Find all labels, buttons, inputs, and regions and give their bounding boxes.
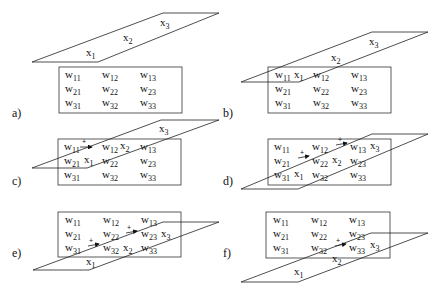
x2-label: x2: [332, 153, 342, 168]
x2-label: x2: [120, 139, 130, 154]
svg-text:w22: w22: [102, 154, 118, 169]
plus-sign: +: [127, 224, 131, 231]
svg-text:w32: w32: [103, 241, 119, 256]
plus-sign: +: [82, 138, 86, 145]
svg-text:w23: w23: [141, 227, 157, 242]
panel-c: x1 x2 x3 w11 w12 w13 w21 w22 w23 w31 w32…: [12, 120, 219, 188]
svg-text:w32: w32: [312, 168, 328, 183]
svg-text:w12: w12: [311, 213, 327, 228]
svg-text:w31: w31: [273, 241, 289, 256]
svg-text:w33: w33: [140, 168, 156, 183]
x2-label: x2: [331, 51, 341, 66]
svg-text:w22: w22: [311, 227, 327, 242]
panel-f: x1 x2 x3 w11 w12 w13 w21 w22 w23 w31 w32…: [223, 212, 428, 282]
svg-text:w11: w11: [274, 140, 290, 155]
svg-text:w13: w13: [349, 213, 365, 228]
plus-sign: +: [336, 237, 340, 244]
plus-sign: +: [300, 149, 304, 156]
svg-text:w31: w31: [275, 96, 291, 111]
x1-label: x1: [294, 265, 304, 280]
panel-label-f: f): [223, 246, 231, 260]
svg-text:w11: w11: [275, 68, 291, 83]
x1-label: x1: [84, 153, 94, 168]
svg-text:w33: w33: [141, 241, 157, 256]
svg-text:w21: w21: [274, 154, 290, 169]
svg-text:w31: w31: [65, 96, 81, 111]
panel-label-d: d): [223, 174, 233, 188]
svg-text:w21: w21: [65, 82, 81, 97]
x3-label: x3: [369, 35, 379, 50]
svg-text:w12: w12: [102, 68, 118, 83]
svg-text:w23: w23: [351, 82, 367, 97]
svg-text:w22: w22: [103, 227, 119, 242]
panel-b: x1 x2 x3 w11 w12 w13 w21 w22 w23 w31 w32…: [223, 32, 428, 120]
panel-label-a: a): [12, 106, 21, 120]
accumulate-arrow: [88, 244, 99, 246]
svg-text:w12: w12: [103, 213, 119, 228]
svg-text:w11: w11: [273, 213, 289, 228]
panel-a: x1 x2 x3 w11 w12 w13 w21 w22 w23 w31 w32…: [12, 13, 219, 120]
svg-text:w21: w21: [273, 227, 289, 242]
plus-sign: +: [89, 237, 93, 244]
plus-sign: +: [338, 136, 342, 143]
x2-label: x2: [123, 241, 133, 256]
svg-text:w12: w12: [313, 68, 329, 83]
svg-text:w21: w21: [64, 154, 80, 169]
svg-text:w33: w33: [140, 96, 156, 111]
accumulate-arrow: [298, 156, 309, 158]
panel-e: x1 x2 x3 w11 w12 w13 w21 w22 w23 w31 w32…: [12, 212, 219, 270]
matrix-cells: w11 w12 w13 w21 w22 w23 w31 w32 w33: [64, 140, 156, 183]
matrix-cells: w11 w12 w13 w21 w22 w23 w31 w32 w33: [65, 68, 156, 111]
panel-label-b: b): [223, 106, 233, 120]
svg-text:w13: w13: [351, 68, 367, 83]
x3-label: x3: [160, 16, 170, 31]
svg-text:w11: w11: [65, 213, 81, 228]
svg-text:w23: w23: [350, 154, 366, 169]
svg-text:w33: w33: [349, 241, 365, 256]
svg-text:w32: w32: [102, 168, 118, 183]
svg-text:w11: w11: [65, 68, 81, 83]
x1-label: x1: [294, 167, 304, 182]
svg-text:w32: w32: [313, 96, 329, 111]
x3-label: x3: [161, 227, 171, 242]
matrix-cells: w11 w12 w13 w21 w22 w23 w31 w32 w33: [274, 140, 366, 183]
svg-text:w12: w12: [312, 140, 328, 155]
svg-text:w21: w21: [275, 82, 291, 97]
x3-label: x3: [370, 238, 380, 253]
matrix-cells: w11 w12 w13 w21 w22 w23 w31 w32 w33: [65, 213, 157, 256]
vector-plane: [32, 120, 219, 168]
svg-text:w33: w33: [351, 96, 367, 111]
svg-text:w13: w13: [140, 140, 156, 155]
svg-text:w32: w32: [311, 241, 327, 256]
x2-label: x2: [332, 252, 342, 267]
svg-text:w13: w13: [141, 213, 157, 228]
diagram-canvas: x1 x2 x3 w11 w12 w13 w21 w22 w23 w31 w32…: [0, 0, 439, 293]
svg-text:w11: w11: [64, 140, 80, 155]
x2-label: x2: [123, 31, 133, 46]
svg-text:w22: w22: [102, 82, 118, 97]
svg-text:w12: w12: [102, 140, 118, 155]
svg-text:w22: w22: [313, 82, 329, 97]
matrix-cells: w11 w12 w13 w21 w22 w23 w31 w32 w33: [273, 213, 365, 256]
panel-d: x1 x2 x3 w11 w12 w13 w21 w22 w23 w31 w32…: [223, 134, 428, 189]
svg-text:w31: w31: [64, 168, 80, 183]
matrix-cells: w11 w12 w13 w21 w22 w23 w31 w32 w33: [275, 68, 367, 111]
svg-text:w13: w13: [140, 68, 156, 83]
x3-label: x3: [159, 122, 169, 137]
svg-text:w21: w21: [65, 227, 81, 242]
svg-text:w13: w13: [350, 140, 366, 155]
accumulate-arrow: [336, 143, 347, 145]
svg-text:w23: w23: [140, 154, 156, 169]
svg-text:w31: w31: [65, 241, 81, 256]
svg-text:w23: w23: [349, 227, 365, 242]
panel-label-e: e): [12, 246, 21, 260]
x3-label: x3: [370, 139, 380, 154]
x1-label: x1: [294, 68, 304, 83]
svg-text:w23: w23: [140, 82, 156, 97]
x1-label: x1: [86, 46, 96, 61]
svg-text:w32: w32: [102, 96, 118, 111]
svg-text:w33: w33: [350, 168, 366, 183]
panel-label-c: c): [12, 174, 21, 188]
svg-text:w31: w31: [274, 168, 290, 183]
